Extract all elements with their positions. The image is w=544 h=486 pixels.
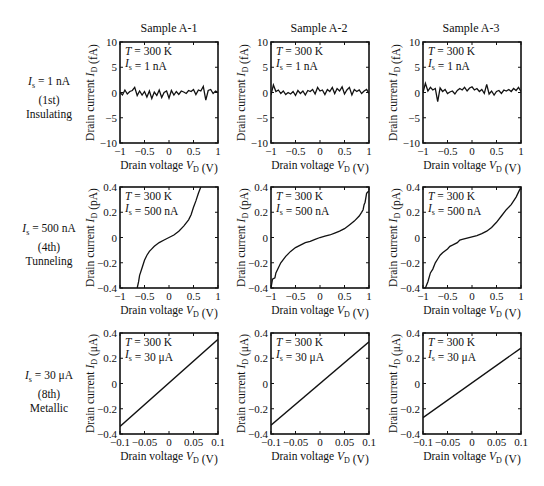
x-tick-label: 0.5 <box>187 290 201 302</box>
y-tick-label: 0 <box>263 232 269 244</box>
annotation-text: Is = 30 μA <box>427 348 477 364</box>
y-tick-label: 0 <box>263 87 269 99</box>
x-tick-label: 0.5 <box>490 290 504 302</box>
y-tick-label: 0.2 <box>103 206 117 218</box>
y-tick-label: 0 <box>263 378 269 390</box>
x-tick-label: −0.5 <box>135 290 155 302</box>
annotation-text: Is = 1 nA <box>427 57 471 72</box>
chart-panel-r1c2: −1−0.500.51−0.4−0.200.20.4Drain voltage … <box>387 181 524 320</box>
y-tick-label: 10 <box>409 36 421 48</box>
x-tick-label: 0 <box>317 145 323 157</box>
y-axis-label: Drain current ID (μA) <box>387 334 403 433</box>
figure: Sample A-1 Sample A-2 Sample A-3 Is = 1 … <box>0 0 544 486</box>
y-tick-label: 0 <box>112 378 118 390</box>
chart-panel-r0c0: −1−0.500.51−10−50510Drain voltage VD (V)… <box>84 36 221 175</box>
y-tick-label: −0.2 <box>97 403 117 415</box>
x-tick-label: 0.1 <box>362 436 376 448</box>
y-tick-label: −0.2 <box>400 403 420 415</box>
x-tick-label: 1 <box>518 145 524 157</box>
y-tick-label: 0 <box>415 87 421 99</box>
y-tick-label: −10 <box>403 137 421 149</box>
y-tick-label: −0.2 <box>248 257 268 269</box>
x-axis-label: Drain voltage VD (V) <box>423 450 521 466</box>
y-tick-label: −10 <box>251 137 269 149</box>
y-tick-label: −5 <box>105 112 117 124</box>
annotation-text: Is = 30 μA <box>275 348 325 364</box>
y-tick-label: 0.2 <box>254 206 268 218</box>
y-tick-label: −0.4 <box>400 282 420 294</box>
y-tick-label: 10 <box>106 36 118 48</box>
chart-panel-r1c1: −1−0.500.51−0.4−0.200.20.4Drain voltage … <box>235 181 372 320</box>
x-tick-label: 1 <box>366 290 372 302</box>
y-tick-label: 0 <box>112 87 118 99</box>
chart-panel-r0c2: −1−0.500.51−10−50510Drain voltage VD (V)… <box>387 36 524 175</box>
y-tick-label: −0.4 <box>400 428 420 440</box>
data-line <box>271 85 369 96</box>
chart-panel-r2c0: −0.1−0.0500.050.1−0.4−0.200.20.4Drain vo… <box>84 327 225 466</box>
plot-frame <box>120 42 218 143</box>
y-tick-label: 0 <box>415 378 421 390</box>
y-axis-label: Drain current ID (μA) <box>235 334 251 433</box>
y-tick-label: 5 <box>415 61 421 73</box>
data-line <box>137 187 201 288</box>
annotation-text: T = 300 K <box>276 336 324 348</box>
x-axis-label: Drain voltage VD (V) <box>120 159 218 175</box>
annotation-text: T = 300 K <box>276 45 324 57</box>
x-axis-label: Drain voltage VD (V) <box>271 304 369 320</box>
annotation-text: Is = 500 nA <box>427 202 482 217</box>
x-tick-label: −0.5 <box>438 145 458 157</box>
y-tick-label: 0.2 <box>254 352 268 364</box>
x-tick-label: 1 <box>518 290 524 302</box>
x-tick-label: 0 <box>469 145 475 157</box>
annotation-text: Is = 500 nA <box>275 202 330 217</box>
x-axis-label: Drain voltage VD (V) <box>423 304 521 320</box>
x-tick-label: 0.1 <box>211 436 225 448</box>
x-tick-label: 0.05 <box>184 436 204 448</box>
x-axis-label: Drain voltage VD (V) <box>271 159 369 175</box>
y-axis-label: Drain current ID (fA) <box>84 44 100 141</box>
x-tick-label: 0 <box>166 436 172 448</box>
y-tick-label: −0.4 <box>97 282 117 294</box>
y-tick-label: −10 <box>100 137 118 149</box>
x-tick-label: −0.05 <box>283 436 309 448</box>
data-line <box>425 187 521 288</box>
y-tick-label: 0.4 <box>254 327 268 339</box>
y-tick-label: 0.4 <box>103 181 117 193</box>
x-tick-label: 1 <box>215 145 221 157</box>
plot-frame <box>271 42 369 143</box>
y-tick-label: 0.2 <box>406 352 420 364</box>
annotation-text: T = 300 K <box>276 190 324 202</box>
chart-panel-r1c0: −1−0.500.51−0.4−0.200.20.4Drain voltage … <box>84 181 221 320</box>
annotation-text: Is = 30 μA <box>124 348 174 364</box>
y-tick-label: 0.2 <box>406 206 420 218</box>
y-tick-label: −0.4 <box>248 282 268 294</box>
y-tick-label: 0.2 <box>103 352 117 364</box>
y-axis-label: Drain current ID (fA) <box>235 44 251 141</box>
x-axis-label: Drain voltage VD (V) <box>120 304 218 320</box>
annotation-text: Is = 1 nA <box>275 57 319 72</box>
y-tick-label: −0.4 <box>97 428 117 440</box>
x-tick-label: 0 <box>469 290 475 302</box>
chart-panel-r2c1: −0.1−0.0500.050.1−0.4−0.200.20.4Drain vo… <box>235 327 376 466</box>
y-tick-label: 0 <box>415 232 421 244</box>
plot-grid: −1−0.500.51−10−50510Drain voltage VD (V)… <box>0 0 544 486</box>
data-line <box>120 86 218 100</box>
x-tick-label: 1 <box>366 145 372 157</box>
annotation-text: T = 300 K <box>125 190 173 202</box>
y-tick-label: 5 <box>263 61 269 73</box>
annotation-text: T = 300 K <box>125 45 173 57</box>
y-tick-label: 0.4 <box>406 327 420 339</box>
x-tick-label: −0.5 <box>286 290 306 302</box>
data-line <box>423 83 521 101</box>
y-tick-label: −0.4 <box>248 428 268 440</box>
x-tick-label: 0.5 <box>187 145 201 157</box>
x-tick-label: 0.05 <box>335 436 355 448</box>
annotation-text: T = 300 K <box>125 336 173 348</box>
x-axis-label: Drain voltage VD (V) <box>120 450 218 466</box>
y-tick-label: −5 <box>408 112 420 124</box>
annotation-text: T = 300 K <box>428 336 476 348</box>
y-axis-label: Drain current ID (pA) <box>84 188 100 287</box>
x-tick-label: 0 <box>469 436 475 448</box>
x-tick-label: 0.05 <box>487 436 507 448</box>
x-tick-label: −0.5 <box>286 145 306 157</box>
